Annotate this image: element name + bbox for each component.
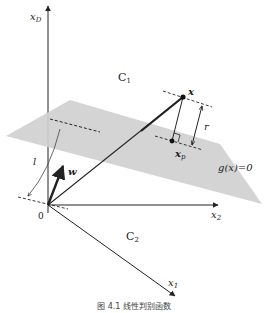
x1-axis bbox=[48, 205, 175, 296]
x1-axis-label: x1 bbox=[168, 277, 178, 290]
vector-w-label: w bbox=[68, 166, 77, 177]
point-x bbox=[180, 94, 185, 99]
point-x-label: x bbox=[187, 86, 195, 97]
point-xp bbox=[170, 139, 175, 144]
origin-label: 0 bbox=[38, 211, 44, 221]
origin-dashed-line bbox=[18, 197, 68, 209]
region-c2-label: C2 bbox=[126, 230, 139, 244]
region-c1-label: C1 bbox=[118, 71, 131, 85]
distance-r-label: r bbox=[204, 121, 210, 132]
distance-l-label: l bbox=[33, 156, 36, 167]
xD-axis-label: xD bbox=[30, 11, 42, 24]
x2-axis-label: x2 bbox=[211, 209, 222, 222]
plane-equation-label: g(x)=0 bbox=[218, 162, 253, 173]
figure-caption: 图 4.1 线性判别函数 bbox=[97, 301, 171, 311]
decision-plane bbox=[6, 100, 262, 204]
linear-discriminant-diagram: xD C1 C2 x xp r l w 0 g(x)=0 x2 x1 图 4.1… bbox=[0, 0, 268, 313]
position-vector-x-bold bbox=[141, 97, 183, 131]
